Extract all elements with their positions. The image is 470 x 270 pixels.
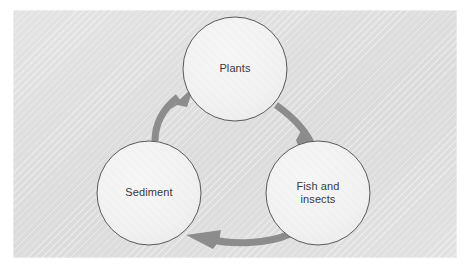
node-fish-and-insects-label-line1: Fish and [297, 180, 340, 192]
node-fish-and-insects-label-line2: insects [301, 193, 336, 205]
node-plants[interactable]: Plants [183, 17, 287, 121]
node-plants-label: Plants [219, 62, 251, 74]
node-fish-and-insects[interactable]: Fish and insects [266, 141, 370, 245]
node-sediment[interactable]: Sediment [97, 141, 201, 245]
diagram-stage: Plants Fish and insects Sediment [0, 0, 470, 270]
arrow-sediment-to-plants [155, 86, 194, 141]
node-sediment-label: Sediment [125, 186, 172, 198]
cycle-diagram: Plants Fish and insects Sediment [0, 0, 470, 270]
arrow-fish-to-sediment [186, 230, 290, 249]
